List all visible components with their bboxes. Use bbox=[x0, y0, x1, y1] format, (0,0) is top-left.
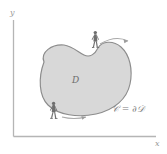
x-axis-label: x bbox=[155, 139, 160, 148]
region-label: D bbox=[71, 75, 79, 85]
greens-theorem-diagram: y x D 𝒞 = ∂𝒟 bbox=[0, 0, 167, 154]
boundary-label: 𝒞 = ∂𝒟 bbox=[112, 104, 146, 114]
y-axis-label: y bbox=[9, 8, 15, 17]
